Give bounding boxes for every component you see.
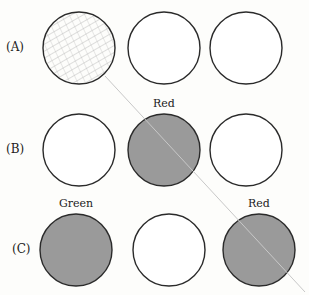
circle-white xyxy=(128,12,200,84)
circle-white xyxy=(133,214,205,286)
circle-gray xyxy=(128,114,200,186)
circle-gray xyxy=(40,214,112,286)
row-label: (A) xyxy=(6,40,24,54)
row-label: (C) xyxy=(12,242,31,256)
circle-color-label: Green xyxy=(59,197,93,210)
row-label: (B) xyxy=(6,142,24,156)
diagram: (A)(B)Red(C)GreenRed xyxy=(0,0,309,295)
circle-white xyxy=(43,114,115,186)
hatch-overlay xyxy=(44,13,114,83)
circle-color-label: Red xyxy=(153,97,175,110)
diagram-canvas xyxy=(0,0,309,295)
circle-white xyxy=(210,12,282,84)
circle-color-label: Red xyxy=(248,197,270,210)
circle-white xyxy=(210,114,282,186)
circle-gray xyxy=(223,214,295,286)
